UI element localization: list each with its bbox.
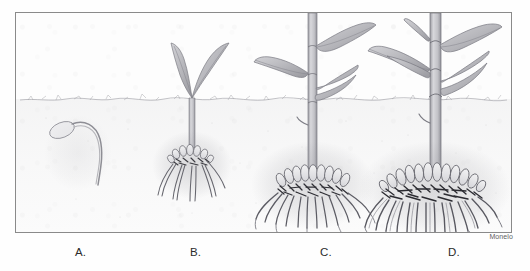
leaf-c-1 <box>316 23 376 52</box>
stage-label-b: B. <box>190 246 201 258</box>
leaf-c-2 <box>254 57 308 78</box>
stage-d-plant <box>359 13 511 232</box>
stage-labels-row: A. B. C. D. <box>15 246 512 268</box>
figure-root: Monelo A. B. C. D. <box>0 0 530 271</box>
lateral-stub-d <box>419 114 430 123</box>
stage-b-plant <box>152 43 232 201</box>
stage-label-c: C. <box>320 246 332 258</box>
stage-label-d: D. <box>448 246 460 258</box>
stage-c-plant <box>251 13 376 232</box>
artist-signature: Monelo <box>489 233 513 240</box>
plant-stages-drawing <box>16 13 511 232</box>
stage-a-plant <box>44 115 112 191</box>
leaf-d-4 <box>441 51 489 82</box>
lateral-stub-c <box>297 117 308 125</box>
illustration-panel <box>15 12 512 233</box>
leaf-b-right <box>192 43 229 98</box>
stage-label-a: A. <box>75 246 86 258</box>
leaf-d-2 <box>404 19 430 42</box>
leaf-b-left <box>171 43 192 98</box>
illustration-canvas <box>16 13 511 232</box>
leaf-c-3 <box>316 65 358 89</box>
leaf-d-1 <box>440 24 502 52</box>
